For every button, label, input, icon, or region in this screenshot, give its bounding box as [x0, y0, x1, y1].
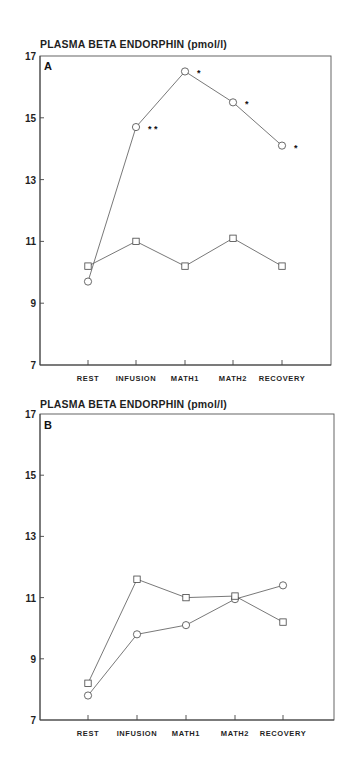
y-tick-label: 7	[30, 360, 36, 371]
y-tick-label: 7	[30, 715, 36, 726]
square-marker	[182, 263, 188, 269]
x-tick-label: MATH1	[172, 729, 200, 738]
circle-marker	[181, 68, 188, 75]
y-tick-label: 11	[25, 593, 36, 604]
square-marker	[134, 576, 140, 582]
y-tick-label: 13	[25, 531, 37, 542]
y-tick-label: 11	[25, 236, 36, 247]
square-marker	[85, 680, 91, 686]
circle-marker	[182, 622, 189, 629]
panel-b-letter: B	[44, 419, 52, 431]
y-tick-label: 9	[30, 654, 36, 665]
x-tick-label: RECOVERY	[260, 729, 307, 738]
figure: 7911131517RESTINFUSIONMATH1MATH2RECOVERY…	[0, 0, 355, 771]
y-tick-label: 9	[30, 298, 36, 309]
series-line-circle	[88, 585, 283, 695]
y-tick-label: 13	[25, 175, 37, 186]
circle-marker	[279, 582, 286, 589]
plot-frame	[40, 414, 334, 720]
y-tick-label: 17	[25, 409, 37, 420]
circle-marker	[84, 278, 91, 285]
panel-b: 7911131517RESTINFUSIONMATH1MATH2RECOVERY…	[25, 398, 334, 738]
x-tick-label: INFUSION	[117, 729, 158, 738]
plot-frame	[40, 56, 331, 365]
square-marker	[183, 594, 189, 600]
significance-marker: *	[245, 99, 249, 109]
panel-a-letter: A	[44, 60, 52, 72]
panel-b-title: PLASMA BETA ENDORPHIN (pmol/l)	[40, 398, 227, 410]
y-tick-label: 17	[25, 51, 37, 62]
panel-a: 7911131517RESTINFUSIONMATH1MATH2RECOVERY…	[25, 38, 331, 383]
circle-marker	[133, 631, 140, 638]
square-marker	[232, 593, 238, 599]
square-marker	[85, 263, 91, 269]
square-marker	[279, 263, 285, 269]
panel-a-title: PLASMA BETA ENDORPHIN (pmol/l)	[40, 38, 227, 50]
y-tick-label: 15	[25, 113, 37, 124]
significance-marker: *	[294, 143, 298, 153]
circle-marker	[84, 692, 91, 699]
square-marker	[280, 619, 286, 625]
significance-marker: *	[197, 68, 201, 78]
x-tick-label: MATH2	[219, 374, 247, 383]
circle-marker	[229, 99, 236, 106]
x-tick-label: RECOVERY	[259, 374, 306, 383]
significance-marker: * *	[148, 124, 158, 134]
x-tick-label: MATH2	[221, 729, 249, 738]
x-tick-label: MATH1	[171, 374, 199, 383]
circle-marker	[278, 142, 285, 149]
square-marker	[230, 235, 236, 241]
x-tick-label: REST	[77, 729, 99, 738]
square-marker	[133, 238, 139, 244]
circle-marker	[132, 123, 139, 130]
x-tick-label: REST	[77, 374, 99, 383]
x-tick-label: INFUSION	[116, 374, 157, 383]
y-tick-label: 15	[25, 470, 37, 481]
series-line-square	[88, 238, 282, 266]
